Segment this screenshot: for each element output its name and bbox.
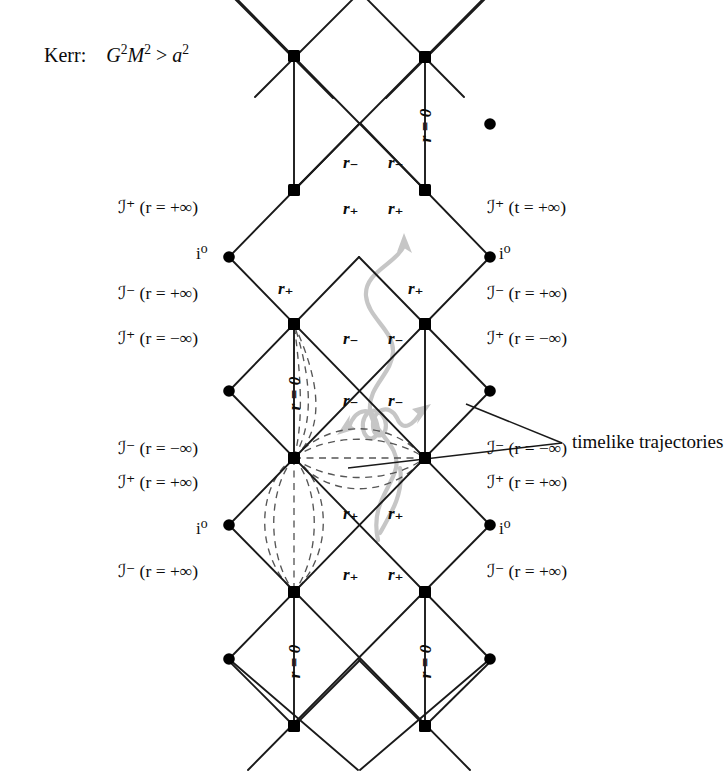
- scri-minus-r-plus-infinity-label-2: ℐ⁻ (r = +∞): [118, 563, 198, 581]
- lattice-node-crossing: [288, 586, 300, 598]
- figure-title-condition: G2M2 > a2: [106, 44, 189, 66]
- lattice-node-crossing: [288, 720, 300, 732]
- null-line-upleft-7: [360, 0, 464, 97]
- lattice-node-crossing: [288, 50, 300, 62]
- scri-plus-r-plus-infinity-label-3: ℐ⁺ (r = +∞): [487, 474, 567, 492]
- scri-plus-t-plus-infinity-label: ℐ⁺ (t = +∞): [487, 199, 566, 217]
- null-line-upleft-9: [228, 0, 333, 98]
- lattice-node-spatial-infinity: [223, 653, 235, 665]
- horizon-label-r-plus: r₊: [343, 566, 359, 583]
- singularity-label-r-equals-0: r = 0: [286, 636, 303, 688]
- lattice-node-crossing: [288, 318, 300, 330]
- spatial-infinity-label-4: i⁰: [499, 520, 511, 537]
- horizon-label-r-plus: r₊: [388, 505, 404, 522]
- timelike-trajectory-wavy: [349, 409, 421, 438]
- lattice-node-spatial-infinity: [223, 251, 235, 263]
- null-line-upright-11: [294, 660, 360, 726]
- scri-minus-r-minus-infinity-label-2: ℐ⁻ (r = −∞): [487, 440, 567, 458]
- kerr-penrose-diagram: [0, 0, 724, 780]
- scri-minus-r-plus-infinity-label-1: ℐ⁻ (r = +∞): [118, 285, 198, 303]
- null-line-upright-9: [386, 0, 492, 98]
- lattice-node-crossing: [419, 720, 431, 732]
- singularity-label-r-equals-0: r = 0: [286, 368, 303, 420]
- lattice-node-spatial-infinity: [484, 519, 496, 531]
- horizon-label-r-minus: r₋: [343, 392, 359, 409]
- dashed-geodesic-down-5: [294, 458, 323, 592]
- horizon-label-r-minus: r₋: [388, 154, 404, 171]
- horizon-label-r-plus: r₊: [388, 200, 404, 217]
- null-lines-group: [228, 0, 492, 770]
- horizon-label-r-plus: r₊: [343, 200, 359, 217]
- penrose-diagram-figure: Kerr: G2M2 > a2 ℐ⁺ (r = +∞) i⁰ ℐ⁻ (r = +…: [0, 0, 724, 780]
- horizon-label-r-minus: r₋: [343, 330, 359, 347]
- horizon-label-r-plus: r₊: [278, 280, 294, 297]
- singularity-label-r-equals-0: r = 0: [417, 100, 434, 152]
- scri-minus-r-plus-infinity-label-3: ℐ⁻ (r = +∞): [487, 285, 567, 303]
- lattice-node-crossing: [419, 318, 431, 330]
- horizon-label-r-plus: r₊: [343, 505, 359, 522]
- null-line-upright-10: [425, 660, 492, 726]
- figure-title: Kerr: G2M2 > a2: [44, 43, 189, 65]
- horizon-label-r-plus: r₊: [408, 280, 424, 297]
- lattice-node-crossing: [419, 51, 431, 63]
- lattice-node-spatial-infinity: [484, 118, 496, 130]
- null-line-upright-7: [255, 0, 360, 97]
- lattice-node-spatial-infinity: [484, 385, 496, 397]
- spatial-infinity-label-2: i⁰: [196, 520, 208, 537]
- scri-plus-r-plus-infinity-label-1: ℐ⁺ (r = +∞): [118, 199, 198, 217]
- scri-plus-r-minus-infinity-label-2: ℐ⁺ (r = −∞): [487, 330, 567, 348]
- dashed-geodesic-down-1: [265, 458, 294, 592]
- lattice-node-spatial-infinity: [484, 653, 496, 665]
- lattice-node-crossing: [419, 452, 431, 464]
- lattice-node-spatial-infinity: [223, 519, 235, 531]
- singularity-label-r-equals-0: r = 0: [417, 636, 434, 688]
- scri-minus-r-minus-infinity-label-1: ℐ⁻ (r = −∞): [118, 440, 198, 458]
- horizon-label-r-minus: r₋: [388, 392, 404, 409]
- lattice-node-crossing: [419, 586, 431, 598]
- horizon-label-r-minus: r₋: [343, 154, 359, 171]
- scri-minus-r-plus-infinity-label-4: ℐ⁻ (r = +∞): [487, 563, 567, 581]
- lattice-node-spatial-infinity: [484, 251, 496, 263]
- horizon-label-r-plus: r₊: [388, 566, 404, 583]
- figure-title-name: Kerr:: [44, 44, 86, 66]
- dashed-geodesic-down-4: [294, 458, 314, 592]
- lattice-node-spatial-infinity: [223, 385, 235, 397]
- timelike-trajectories-annotation: timelike trajectories: [572, 432, 723, 451]
- horizon-label-r-minus: r₋: [388, 330, 404, 347]
- dashed-geodesic-right-1: [294, 429, 425, 458]
- lattice-node-crossing: [419, 184, 431, 196]
- dashed-geodesic-right-5: [294, 458, 425, 489]
- spatial-infinity-label-3: i⁰: [499, 245, 511, 262]
- lattice-node-crossing: [288, 184, 300, 196]
- scri-plus-r-minus-infinity-label-1: ℐ⁺ (r = −∞): [118, 330, 198, 348]
- spatial-infinity-label-1: i⁰: [196, 245, 208, 262]
- lattice-node-crossing: [288, 452, 300, 464]
- dashed-geodesic-down-2: [274, 458, 294, 592]
- timelike-trajectory-long-arrowhead: [397, 233, 412, 253]
- scri-plus-r-plus-infinity-label-2: ℐ⁺ (r = +∞): [118, 474, 198, 492]
